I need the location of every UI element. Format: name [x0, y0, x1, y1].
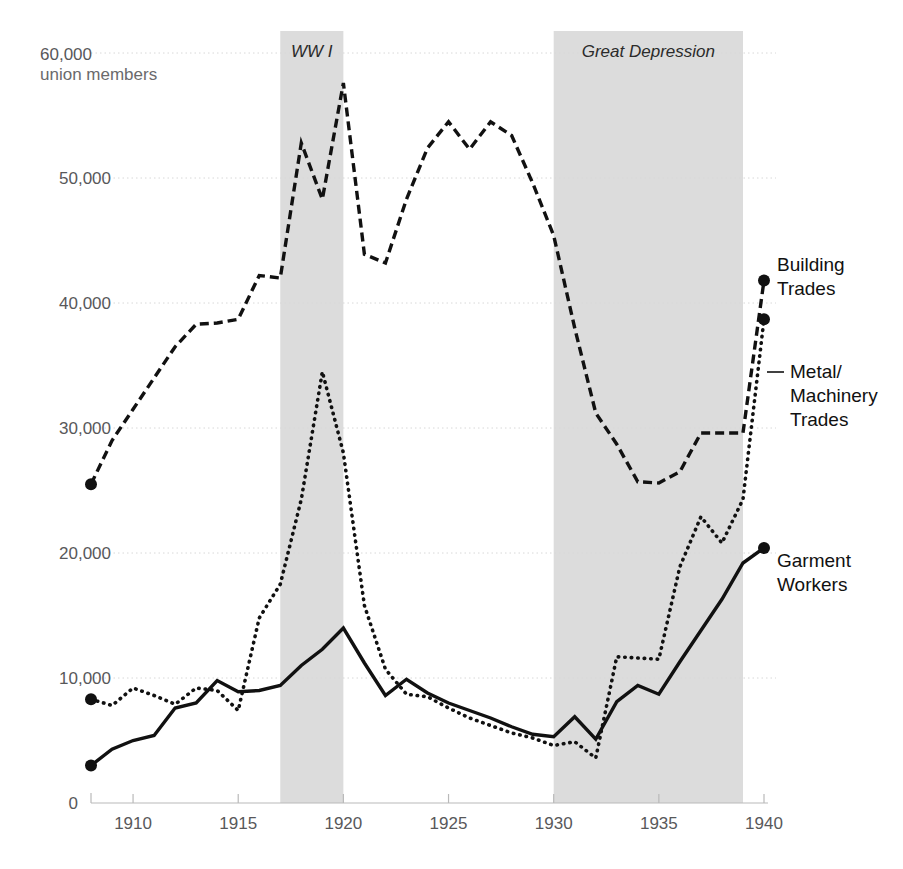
- series-label-building-trades-line-1: Building: [777, 254, 845, 275]
- x-tick-label-1930: 1930: [535, 814, 573, 833]
- series-endpoint-building-trades-start: [85, 478, 97, 490]
- y-tick-label-50000: 50,000: [59, 169, 111, 188]
- series-endpoint-metal-machinery-trades-end: [758, 313, 770, 325]
- x-tick-label-1920: 1920: [324, 814, 362, 833]
- series-endpoint-metal-machinery-trades-start: [85, 693, 97, 705]
- annotation-band-ww-i: [280, 31, 343, 803]
- y-tick-label-40000: 40,000: [59, 294, 111, 313]
- line-chart-canvas: 010,00020,00030,00040,00050,000 19101915…: [0, 0, 903, 869]
- x-tick-label-1915: 1915: [219, 814, 257, 833]
- x-tick-label-1940: 1940: [745, 814, 783, 833]
- series-endpoint-building-trades-end: [758, 275, 770, 287]
- series-label-garment-workers-line-1: Garment: [777, 550, 852, 571]
- x-tick-labels-group: 1910191519201925193019351940: [114, 814, 783, 833]
- y-axis-max-label: 60,000: [40, 45, 92, 64]
- y-tick-labels-group: 010,00020,00030,00040,00050,000: [59, 169, 111, 813]
- band-label-ww-i: WW I: [291, 42, 333, 61]
- series-labels-group: BuildingTradesMetal/MachineryTradesGarme…: [767, 254, 878, 595]
- x-tick-label-1925: 1925: [430, 814, 468, 833]
- annotation-band-great-depression: [554, 31, 743, 803]
- y-axis-unit-caption: union members: [40, 65, 157, 84]
- series-label-metal-machinery-trades-line-1: Metal/: [790, 361, 842, 382]
- y-tick-label-10000: 10,000: [59, 669, 111, 688]
- y-tick-label-20000: 20,000: [59, 544, 111, 563]
- y-tick-label-0: 0: [69, 794, 78, 813]
- band-labels-group: WW IGreat Depression: [291, 42, 715, 61]
- x-tick-label-1935: 1935: [640, 814, 678, 833]
- series-label-metal-machinery-trades-line-3: Trades: [790, 409, 848, 430]
- chart-figure: 010,00020,00030,00040,00050,000 19101915…: [0, 0, 903, 869]
- band-label-great-depression: Great Depression: [582, 42, 715, 61]
- x-tick-label-1910: 1910: [114, 814, 152, 833]
- y-tick-label-30000: 30,000: [59, 419, 111, 438]
- series-label-garment-workers-line-2: Workers: [777, 574, 847, 595]
- series-label-metal-machinery-trades-line-2: Machinery: [790, 385, 878, 406]
- y-axis-caption-group: 60,000union members: [40, 45, 157, 84]
- series-endpoint-garment-workers-end: [758, 542, 770, 554]
- series-label-building-trades-line-2: Trades: [777, 278, 835, 299]
- annotation-bands-group: [280, 31, 743, 803]
- series-endpoint-garment-workers-start: [85, 760, 97, 772]
